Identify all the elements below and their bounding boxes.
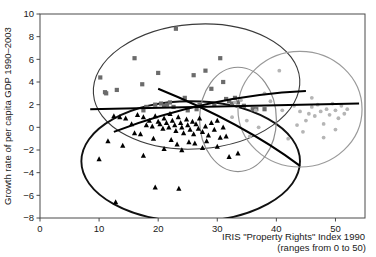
marker-circle <box>325 107 329 111</box>
marker-triangle <box>174 142 179 147</box>
marker-triangle <box>176 186 181 191</box>
marker-square <box>168 100 172 104</box>
marker-triangle <box>120 143 125 148</box>
marker-triangle <box>187 127 192 132</box>
marker-triangle <box>209 120 214 125</box>
x-tick-label: 30 <box>212 223 223 234</box>
marker-triangle <box>224 134 229 139</box>
marker-circle <box>310 96 314 100</box>
marker-triangle <box>153 185 158 190</box>
y-tick-label: 2 <box>29 99 34 110</box>
marker-triangle <box>160 126 165 131</box>
marker-triangle <box>212 127 217 132</box>
marker-triangle <box>179 125 184 130</box>
scatter-chart: 01020304050−8−6−4−20246810IRIS "Property… <box>0 0 376 257</box>
marker-circle <box>230 115 234 119</box>
x-tick-label: 0 <box>37 223 42 234</box>
x-axis-title: IRIS "Property Rights" Index 1990 <box>222 231 365 242</box>
marker-circle <box>310 105 314 109</box>
marker-circle <box>277 69 281 73</box>
marker-square <box>209 87 213 91</box>
marker-square <box>153 103 157 107</box>
marker-triangle <box>169 137 174 142</box>
marker-square <box>115 88 119 92</box>
marker-triangle <box>235 151 240 156</box>
marker-triangle <box>185 122 190 127</box>
marker-circle <box>301 130 305 134</box>
marker-circle <box>337 116 341 120</box>
marker-triangle <box>192 140 197 145</box>
trendline-group <box>90 89 359 166</box>
marker-circle <box>295 123 299 127</box>
marker-triangle <box>221 125 226 130</box>
marker-triangle <box>190 119 195 124</box>
marker-circle <box>313 114 317 118</box>
marker-circle <box>328 113 332 117</box>
ellipse-mid <box>200 67 277 171</box>
y-tick-label: 6 <box>29 54 34 65</box>
y-tick-label: −6 <box>23 190 34 201</box>
marker-circle <box>319 110 323 114</box>
marker-triangle <box>138 131 143 136</box>
marker-circle <box>307 112 311 116</box>
marker-triangle <box>151 136 156 141</box>
marker-circle <box>298 110 302 114</box>
marker-triangle <box>206 132 211 137</box>
chart-container: 01020304050−8−6−4−20246810IRIS "Property… <box>0 0 376 257</box>
marker-square <box>218 56 222 60</box>
y-tick-label: 0 <box>29 122 34 133</box>
marker-triangle <box>191 131 196 136</box>
marker-square <box>174 27 178 31</box>
marker-triangle <box>150 123 155 128</box>
x-tick-label: 10 <box>94 223 105 234</box>
marker-square <box>156 71 160 75</box>
marker-triangle <box>113 199 118 204</box>
marker-triangle <box>170 118 175 123</box>
y-tick-label: 8 <box>29 31 34 42</box>
ellipse-squares <box>89 17 304 156</box>
marker-square <box>98 75 102 79</box>
marker-circle <box>334 108 338 112</box>
marker-triangle <box>181 130 186 135</box>
ellipse-group <box>81 17 362 221</box>
marker-circle <box>248 135 252 139</box>
marker-square <box>203 69 207 73</box>
marker-triangle <box>111 113 116 118</box>
marker-triangle <box>186 139 191 144</box>
y-tick-label: −8 <box>23 212 34 223</box>
marker-triangle <box>105 138 110 143</box>
marker-circle <box>269 99 273 103</box>
marker-square <box>132 56 136 60</box>
marker-triangle <box>141 114 146 119</box>
marker-circle <box>233 101 237 105</box>
marker-triangle <box>164 120 169 125</box>
marker-triangle <box>123 115 128 120</box>
marker-square <box>221 80 225 84</box>
marker-triangle <box>144 122 149 127</box>
marker-triangle <box>203 123 208 128</box>
marker-triangle <box>176 114 181 119</box>
marker-circle <box>304 119 308 123</box>
marker-circle <box>322 136 326 140</box>
marker-triangle <box>197 115 202 120</box>
marker-circle <box>286 137 290 141</box>
x-axis-subtitle: (ranges from 0 to 50) <box>277 242 366 253</box>
y-tick-label: −4 <box>23 167 34 178</box>
y-tick-label: 4 <box>29 76 34 87</box>
marker-circle <box>345 107 349 111</box>
y-axis-title: Growth rate of per capita GDP 1990–2003 <box>2 27 13 205</box>
marker-triangle <box>172 122 177 127</box>
marker-triangle <box>226 154 231 159</box>
marker-triangle <box>96 156 101 161</box>
marker-triangle <box>184 117 189 122</box>
x-tick-label: 20 <box>153 223 164 234</box>
marker-triangle <box>204 138 209 143</box>
marker-circle <box>254 108 258 112</box>
marker-circle <box>334 128 338 132</box>
marker-square <box>262 107 266 111</box>
marker-circle <box>322 122 326 126</box>
y-tick-label: 10 <box>23 8 34 19</box>
marker-triangle <box>179 147 184 152</box>
marker-square <box>192 73 196 77</box>
marker-triangle <box>166 125 171 130</box>
